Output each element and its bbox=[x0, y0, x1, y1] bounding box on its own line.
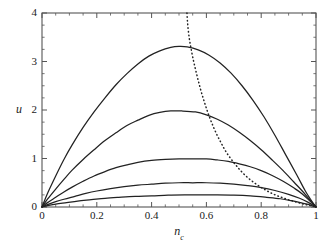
x-tick-label-4: 0.8 bbox=[241, 210, 281, 221]
y-tick-label-4: 4 bbox=[0, 7, 37, 18]
series-envelope-dotted bbox=[187, 13, 316, 207]
x-axis-title-subscript: c bbox=[180, 233, 184, 242]
plot-frame bbox=[42, 13, 316, 207]
y-tick-label-1: 1 bbox=[0, 153, 37, 164]
y-tick-label-3: 3 bbox=[0, 56, 37, 67]
data-series bbox=[42, 13, 316, 207]
x-tick-label-3: 0.6 bbox=[186, 210, 226, 221]
x-axis-title: nc bbox=[167, 225, 191, 240]
axis-ticks bbox=[42, 13, 316, 207]
x-tick-label-1: 0.2 bbox=[77, 210, 117, 221]
x-tick-label-0: 0 bbox=[22, 210, 62, 221]
x-tick-label-5: 1 bbox=[296, 210, 334, 221]
x-tick-label-2: 0.4 bbox=[132, 210, 172, 221]
chart-figure: 0 1 2 3 4 0 0.2 0.4 0.6 0.8 1 u nc bbox=[0, 0, 334, 248]
y-axis-title: u bbox=[16, 103, 22, 115]
